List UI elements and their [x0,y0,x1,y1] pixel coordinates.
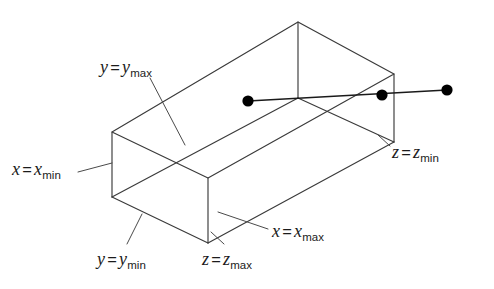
label-y-max-subscript: max [130,67,152,79]
label-y-max-lhs: y [100,57,108,77]
label-y-min-equals: = [105,250,119,268]
ray-point-exit [376,89,387,100]
leader-line-z-max [211,232,224,244]
ray-segment-group [242,84,452,106]
label-x-max: x=xmax [272,222,324,240]
label-x-min-equals: = [20,160,34,178]
label-z-max-equals: = [209,250,223,268]
label-z-min: z=zmin [392,143,439,161]
label-y-min: y=ymin [97,250,146,268]
label-z-max-subscript: max [230,259,252,271]
box-wireframe [112,22,394,243]
diagram-canvas: y=ymax x=xmin y=ymin z=zmax x=xmax z=zmi… [0,0,494,289]
box-edge-back-bottom-left-hidden [112,98,298,197]
ray-point-entry [242,95,253,106]
label-z-min-subscript: min [420,152,439,164]
label-x-min-subscript: min [42,169,61,181]
label-x-max-subscript: max [302,231,324,243]
label-y-max-equals: = [108,58,122,76]
label-y-max: y=ymax [100,58,152,76]
ray-point-origin [441,84,452,95]
label-x-max-lhs: x [272,221,280,241]
label-x-max-equals: = [280,222,294,240]
label-x-min: x=xmin [12,160,61,178]
label-y-min-lhs: y [97,249,105,269]
label-x-min-lhs: x [12,159,20,179]
label-z-min-equals: = [399,143,413,161]
box-edge-bottom-left [112,197,208,243]
leader-line-x-min [78,163,112,172]
label-z-max: z=zmax [202,250,252,268]
leader-line-y-min [127,214,142,244]
label-y-min-subscript: min [127,259,146,271]
leader-line-y-max [150,78,185,145]
leader-line-z-min [378,135,390,146]
